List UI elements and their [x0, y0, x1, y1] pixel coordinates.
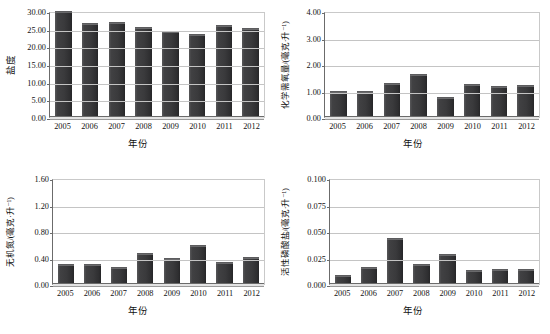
bar-slot	[325, 13, 352, 117]
y-tick-label: 1.20	[34, 201, 49, 210]
y-axis-title: 活性磷酸盐/(毫克·升⁻¹)	[276, 167, 292, 297]
bar	[518, 269, 534, 284]
bar	[491, 86, 508, 117]
x-tick-label: 2011	[487, 289, 513, 298]
x-tick-label: 2008	[132, 289, 159, 298]
y-tick-label: 0.40	[34, 254, 49, 263]
y-tick-label: 3.00	[306, 34, 321, 43]
x-tick-labels: 20052006200720082009201020112012	[329, 289, 540, 298]
bar-slot	[330, 180, 356, 284]
grid-line	[50, 66, 264, 67]
bar	[162, 31, 179, 117]
y-tick-mark	[327, 286, 330, 287]
grid-line	[53, 260, 264, 261]
bar-series	[53, 180, 264, 284]
x-tick-label: 2010	[461, 289, 487, 298]
x-axis-line	[325, 116, 539, 117]
bar	[243, 257, 259, 285]
bar-slot	[238, 180, 264, 284]
y-tick-label: 0.000	[307, 281, 326, 290]
y-tick-labels: 0.005.0010.0015.0020.0025.0030.00	[13, 12, 46, 118]
bar-slot	[53, 180, 79, 284]
y-tick-mark	[50, 207, 53, 208]
bar-slot	[461, 180, 487, 284]
bar	[330, 91, 347, 117]
bar-slot	[159, 180, 185, 284]
chart-figure-grid: 盐度 0.005.0010.0015.0020.0025.0030.00 200…	[0, 0, 550, 334]
x-tick-label: 2012	[238, 122, 265, 131]
bar-slot	[106, 180, 132, 284]
x-tick-label: 2009	[157, 122, 184, 131]
bar-slot	[132, 180, 158, 284]
bar	[189, 34, 206, 117]
chart-panel-inorganic-nitrogen: 无机氮/(毫克·升⁻¹) 0.000.400.801.201.60 200520…	[0, 167, 275, 334]
bar	[437, 97, 454, 117]
x-tick-label: 2007	[382, 289, 408, 298]
bar	[216, 262, 232, 284]
bar	[466, 270, 482, 284]
bar-slot	[185, 180, 211, 284]
x-tick-label: 2005	[52, 289, 79, 298]
x-tick-label: 2012	[514, 289, 540, 298]
y-tick-mark	[50, 260, 53, 261]
bar	[384, 83, 401, 117]
plot-area	[324, 12, 540, 118]
bar-slot	[459, 13, 486, 117]
y-tick-labels: 0.000.400.801.201.60	[16, 179, 49, 285]
x-tick-label: 2009	[159, 289, 186, 298]
y-tick-mark	[47, 48, 50, 49]
bar-slot	[435, 180, 461, 284]
x-tick-labels: 20052006200720082009201020112012	[49, 122, 265, 131]
y-tick-mark	[50, 286, 53, 287]
bar-slot	[79, 180, 105, 284]
x-tick-label: 2006	[351, 122, 378, 131]
x-tick-label: 2011	[211, 122, 238, 131]
bar-slot	[487, 180, 513, 284]
bar-slot	[211, 180, 237, 284]
y-tick-label: 5.00	[31, 96, 46, 105]
bar	[410, 74, 427, 117]
y-tick-mark	[322, 40, 325, 41]
x-axis-line	[330, 283, 539, 284]
grid-line	[325, 93, 539, 94]
x-tick-label: 2005	[49, 122, 76, 131]
x-tick-label: 2005	[329, 289, 355, 298]
y-axis-title: 无机氮/(毫克·升⁻¹)	[1, 167, 17, 297]
chart-panel-cod: 化学需氧量/(毫克·升⁻¹) 0.001.002.003.004.00 2005…	[275, 0, 550, 167]
y-tick-mark	[327, 233, 330, 234]
grid-line	[53, 233, 264, 234]
bar-slot	[432, 13, 459, 117]
chart-panel-salinity: 盐度 0.005.0010.0015.0020.0025.0030.00 200…	[0, 0, 275, 167]
plot-area	[329, 179, 540, 285]
bar-slot	[405, 13, 432, 117]
x-tick-label: 2012	[513, 122, 540, 131]
bar	[413, 264, 429, 284]
bar	[190, 245, 206, 284]
bar	[361, 267, 377, 284]
y-tick-mark	[322, 66, 325, 67]
grid-line	[330, 207, 539, 208]
y-tick-label: 0.050	[307, 228, 326, 237]
y-tick-mark	[322, 13, 325, 14]
y-tick-mark	[50, 180, 53, 181]
bar-slot	[513, 180, 539, 284]
y-tick-mark	[47, 66, 50, 67]
y-tick-label: 4.00	[306, 8, 321, 17]
bar	[492, 269, 508, 284]
x-tick-labels: 20052006200720082009201020112012	[324, 122, 540, 131]
x-tick-label: 2011	[486, 122, 513, 131]
bar	[164, 258, 180, 284]
y-tick-label: 20.00	[27, 43, 46, 52]
y-tick-label: 0.00	[31, 114, 46, 123]
y-tick-label: 0.075	[307, 201, 326, 210]
x-axis-line	[50, 116, 264, 117]
y-tick-label: 0.80	[34, 228, 49, 237]
x-tick-labels: 20052006200720082009201020112012	[52, 289, 265, 298]
bar	[58, 264, 74, 284]
bar-slot	[408, 180, 434, 284]
x-axis-title: 年份	[275, 303, 550, 317]
x-tick-label: 2008	[408, 289, 434, 298]
bar-slot	[352, 13, 379, 117]
x-tick-label: 2005	[324, 122, 351, 131]
x-tick-label: 2006	[79, 289, 106, 298]
